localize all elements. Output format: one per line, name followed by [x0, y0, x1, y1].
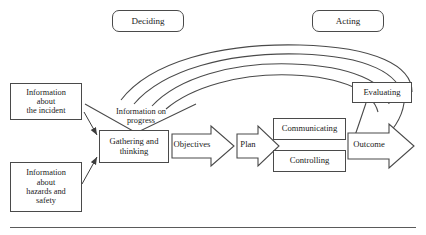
node-gathering-and-thinking-label: Gathering and thinking	[108, 137, 161, 156]
phase-deciding: Deciding	[112, 10, 184, 32]
phase-acting: Acting	[312, 10, 384, 32]
node-gathering-and-thinking: Gathering and thinking	[99, 130, 169, 163]
phase-deciding-label: Deciding	[130, 16, 167, 26]
input-hazards-information-label: Information about hazards and safety	[24, 168, 68, 205]
input-incident-information-label: Information about the incident	[24, 88, 68, 116]
input-incident-information: Information about the incident	[10, 83, 82, 120]
objectives-block-arrow	[172, 126, 234, 166]
node-evaluating-label: Evaluating	[361, 88, 402, 98]
input-hazards-information: Information about hazards and safety	[10, 162, 82, 212]
process-diagram: Deciding Acting Information about the in…	[0, 0, 426, 235]
node-evaluating: Evaluating	[352, 82, 412, 103]
phase-acting-label: Acting	[334, 16, 363, 26]
node-controlling: Controlling	[273, 150, 346, 172]
node-communicating-label: Communicating	[280, 124, 339, 134]
node-controlling-label: Controlling	[288, 156, 332, 166]
bottom-rule	[10, 227, 416, 228]
node-communicating: Communicating	[273, 118, 346, 140]
outcome-block-arrow	[348, 124, 414, 168]
